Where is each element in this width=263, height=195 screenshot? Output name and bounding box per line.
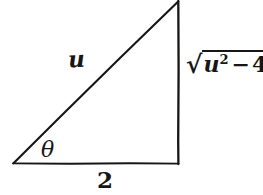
angle-theta-label: θ <box>41 139 54 161</box>
hypotenuse-label: u <box>67 47 85 71</box>
opposite-side-label: √ u 2 − 4 <box>186 50 263 75</box>
triangle-drawing <box>0 0 263 195</box>
radical-sign-icon: √ <box>186 52 202 77</box>
radicand-group: u 2 − 4 <box>202 50 263 75</box>
radicand-constant: 4 <box>252 53 263 75</box>
adjacent-leg-line <box>13 163 179 164</box>
radicand-variable: u <box>203 53 219 75</box>
radicand-exponent: 2 <box>219 53 228 66</box>
base-length-label: 2 <box>97 168 113 191</box>
radicand-operator: − <box>231 53 249 75</box>
hypotenuse-line <box>14 2 179 164</box>
triangle-diagram: u θ 2 √ u 2 − 4 <box>0 0 263 195</box>
